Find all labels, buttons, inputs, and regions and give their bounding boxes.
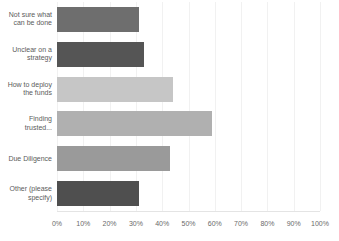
bar[interactable] [57,181,139,206]
gridline [267,2,268,211]
gridline [320,2,321,211]
bar-row [57,77,320,102]
bar[interactable] [57,77,173,102]
x-tick-label: 0% [52,219,62,229]
bar[interactable] [57,7,139,32]
category-label: How to deploy the funds [0,81,52,98]
gridline [162,2,163,211]
bar[interactable] [57,146,170,171]
category-label: Due Diligence [0,155,52,164]
x-tick-label: 50% [181,219,195,229]
bar-row [57,42,320,67]
x-tick-label: 70% [234,219,248,229]
bar[interactable] [57,42,144,67]
category-label: Not sure what can be done [0,11,52,28]
gridline [136,2,137,211]
x-tick-label: 80% [260,219,274,229]
x-tick-label: 100% [311,219,329,229]
gridline [189,2,190,211]
x-tick-label: 60% [208,219,222,229]
bar-row [57,146,320,171]
x-axis-line [57,211,320,212]
gridline [57,2,58,211]
x-tick-label: 20% [103,219,117,229]
plot-area [57,2,320,211]
gridline [294,2,295,211]
x-tick-label: 10% [76,219,90,229]
gridline [83,2,84,211]
gridline [110,2,111,211]
x-tick-label: 30% [129,219,143,229]
horizontal-bar-chart: Not sure what can be doneUnclear on a st… [0,0,339,241]
gridline [215,2,216,211]
category-label: Finding trusted... [0,115,52,132]
bar-row [57,111,320,136]
bar-row [57,181,320,206]
category-label: Other (please specify) [0,185,52,202]
gridline [241,2,242,211]
x-tick-label: 90% [287,219,301,229]
category-label: Unclear on a strategy [0,46,52,63]
bar[interactable] [57,111,212,136]
x-tick-label: 40% [155,219,169,229]
bar-row [57,7,320,32]
x-axis-tick-labels: 0%10%20%30%40%50%60%70%80%90%100% [0,219,339,231]
